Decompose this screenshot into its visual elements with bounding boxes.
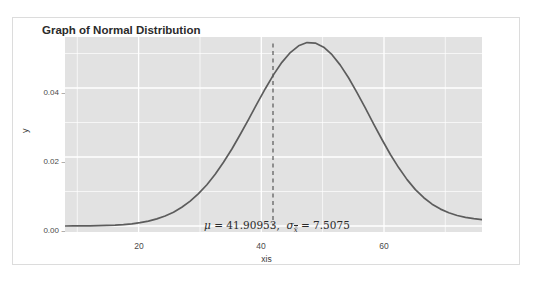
annotation-separator: , bbox=[276, 219, 279, 231]
y-tick-text: 0.04 bbox=[43, 88, 59, 97]
x-tick-label: 60 bbox=[369, 241, 399, 251]
sigma-subscript: x̄ bbox=[294, 226, 298, 234]
x-axis-title: xis bbox=[0, 252, 533, 262]
x-tick-label: 40 bbox=[246, 241, 276, 251]
y-axis-title: y bbox=[20, 129, 30, 134]
mu-value: 41.90953 bbox=[226, 219, 276, 231]
y-tick-label: 0.04– bbox=[25, 88, 59, 97]
mu-equals: = bbox=[214, 219, 223, 231]
x-axis-title-text: xis bbox=[261, 252, 271, 262]
plot-panel bbox=[65, 37, 482, 232]
mu-symbol: μ bbox=[204, 219, 211, 231]
y-tick-label: 0.00– bbox=[25, 226, 59, 235]
statistics-annotation: μ = 41.90953, σx̄ = 7.5075 bbox=[204, 219, 350, 234]
y-tick-label: 0.02– bbox=[25, 157, 59, 166]
normal-distribution-plot bbox=[65, 37, 482, 232]
y-tick-text: 0.00 bbox=[43, 226, 59, 235]
sigma-symbol: σ bbox=[286, 219, 293, 231]
y-tick-text: 0.02 bbox=[43, 157, 59, 166]
x-tick-label: 20 bbox=[124, 241, 154, 251]
page-title: Graph of Normal Distribution bbox=[42, 24, 200, 36]
sigma-value: 7.5075 bbox=[313, 219, 350, 231]
sigma-equals: = bbox=[301, 219, 310, 231]
clipped-header-strip bbox=[0, 0, 533, 14]
